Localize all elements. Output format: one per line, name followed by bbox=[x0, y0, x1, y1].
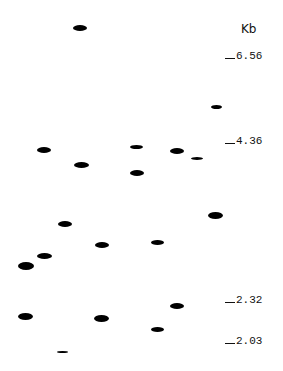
marker-label: 4.36 bbox=[236, 135, 262, 147]
size-marker-2-32: 2.32 bbox=[225, 294, 262, 306]
gel-band bbox=[191, 157, 203, 160]
gel-band bbox=[57, 351, 68, 353]
gel-band bbox=[95, 242, 109, 248]
gel-band bbox=[170, 303, 184, 309]
marker-tick bbox=[225, 302, 235, 303]
gel-band bbox=[130, 170, 144, 176]
gel-image: Kb 6.56 4.36 2.32 2.03 bbox=[0, 0, 283, 371]
marker-tick bbox=[225, 143, 235, 144]
gel-band bbox=[37, 253, 52, 259]
size-marker-6-56: 6.56 bbox=[225, 50, 262, 62]
size-marker-4-36: 4.36 bbox=[225, 135, 262, 147]
gel-band bbox=[74, 162, 89, 168]
gel-band bbox=[151, 240, 164, 245]
gel-band bbox=[18, 313, 33, 320]
gel-band bbox=[208, 212, 223, 219]
unit-label: Kb bbox=[241, 22, 257, 36]
gel-band bbox=[73, 25, 87, 31]
gel-band bbox=[151, 327, 164, 332]
marker-label: 6.56 bbox=[236, 50, 262, 62]
marker-label: 2.03 bbox=[236, 335, 262, 347]
gel-band bbox=[18, 262, 34, 270]
marker-tick bbox=[225, 343, 235, 344]
gel-band bbox=[130, 145, 143, 149]
marker-label: 2.32 bbox=[236, 294, 262, 306]
gel-band bbox=[170, 148, 184, 154]
gel-band bbox=[58, 221, 72, 227]
gel-band bbox=[94, 315, 109, 322]
gel-band bbox=[211, 105, 222, 109]
gel-band bbox=[37, 147, 51, 153]
size-marker-2-03: 2.03 bbox=[225, 335, 262, 347]
marker-tick bbox=[225, 58, 235, 59]
